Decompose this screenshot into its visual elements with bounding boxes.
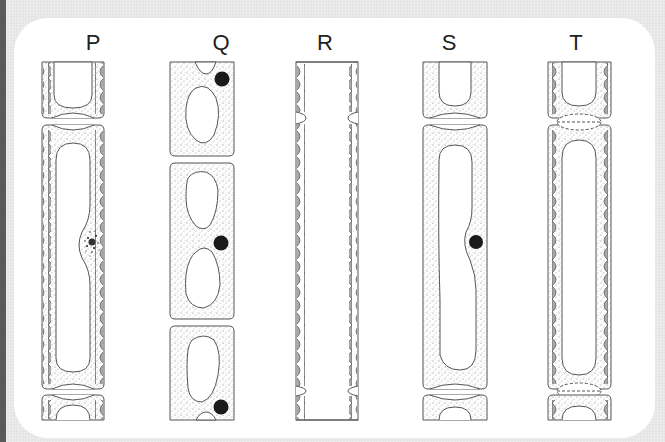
nucleus <box>214 236 229 251</box>
column-p <box>42 62 104 420</box>
nucleus <box>214 400 229 415</box>
nucleus <box>215 72 230 87</box>
column-s <box>423 62 487 420</box>
xylem-development-diagram <box>0 0 665 442</box>
column-q <box>170 62 234 420</box>
nucleus <box>469 235 483 249</box>
column-t <box>548 62 611 420</box>
column-r <box>296 62 358 420</box>
